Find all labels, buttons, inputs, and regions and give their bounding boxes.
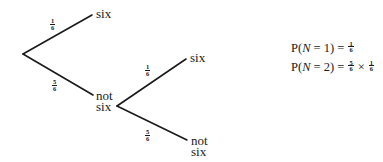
- formula-fraction: 1 6: [348, 41, 353, 54]
- prob-level2-not-six: 5 6: [145, 129, 150, 142]
- branch-root-to-six: [23, 15, 92, 54]
- formula-prefix: P(: [291, 41, 302, 55]
- probability-tree-diagram: 1 6 5 6 six not six 1 6 5 6 six not six …: [0, 0, 383, 162]
- formula-prefix: P(: [291, 60, 302, 74]
- branch-notsix-to-six: [117, 59, 186, 106]
- formula-p-n-equals-2: P(N = 2) = 5 6 × 1 6: [291, 60, 375, 74]
- outcome-line2: six: [191, 146, 208, 157]
- formula-variable: N: [302, 41, 310, 55]
- outcome-not-six-level1: not six: [96, 90, 113, 112]
- outcome-six-level2: six: [190, 52, 205, 63]
- outcome-line2: six: [96, 101, 113, 112]
- outcome-not-six-level2: not six: [191, 135, 208, 157]
- fraction-denominator: 6: [370, 66, 373, 72]
- prob-level1-six: 1 6: [50, 18, 55, 31]
- formula-fraction-1: 5 6: [348, 60, 353, 73]
- fraction-denominator: 6: [349, 47, 352, 53]
- formula-p-n-equals-1: P(N = 1) = 1 6: [291, 41, 355, 55]
- outcome-six-level1: six: [96, 8, 111, 19]
- prob-denominator: 6: [146, 136, 149, 142]
- formula-equals: = 2) =: [310, 60, 347, 74]
- prob-denominator: 6: [53, 86, 56, 92]
- prob-level1-not-six: 5 6: [52, 79, 57, 92]
- branch-root-to-not-six: [23, 54, 93, 95]
- formula-equals: = 1) =: [310, 41, 347, 55]
- prob-denominator: 6: [51, 25, 54, 31]
- branch-notsix-to-not-six: [117, 106, 187, 140]
- prob-denominator: 6: [146, 71, 149, 77]
- fraction-denominator: 6: [349, 66, 352, 72]
- multiply-operator: ×: [358, 60, 365, 74]
- formula-fraction-2: 1 6: [369, 60, 374, 73]
- prob-level2-six: 1 6: [145, 64, 150, 77]
- formula-variable: N: [302, 60, 310, 74]
